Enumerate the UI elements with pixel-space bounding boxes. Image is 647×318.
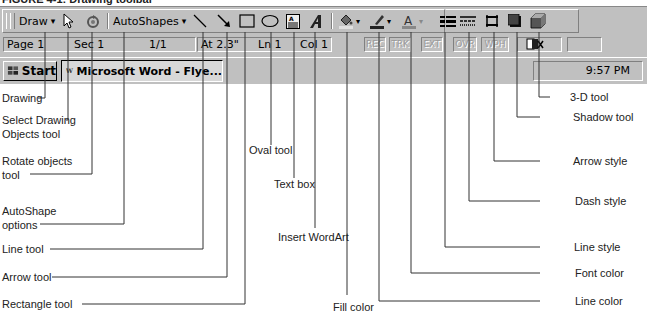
callout-drawing: Drawing <box>2 91 42 105</box>
callout-font-color: Font color <box>575 266 624 280</box>
callout-line-color: Line color <box>575 294 623 308</box>
callout-arrow-tool: Arrow tool <box>2 270 52 284</box>
callout-autoshape: AutoShape options <box>2 204 56 232</box>
callout-leader-lines <box>0 0 647 318</box>
callout-text-box: Text box <box>274 177 315 191</box>
callout-oval-tool: Oval tool <box>249 143 292 157</box>
callout-arrow-style: Arrow style <box>573 154 627 168</box>
callout-dash-style: Dash style <box>575 194 626 208</box>
callout-fill-color: Fill color <box>333 300 374 314</box>
callout-insert-wordart: Insert WordArt <box>278 230 349 244</box>
callout-rotate: Rotate objects tool <box>2 154 72 182</box>
callout-select-objects: Select Drawing Objects tool <box>2 113 76 141</box>
callout-line-style: Line style <box>574 240 620 254</box>
callout-3d-tool: 3-D tool <box>570 90 609 104</box>
callout-line-tool: Line tool <box>2 242 44 256</box>
callout-shadow-tool: Shadow tool <box>573 110 634 124</box>
callout-rectangle-tool: Rectangle tool <box>2 297 72 311</box>
